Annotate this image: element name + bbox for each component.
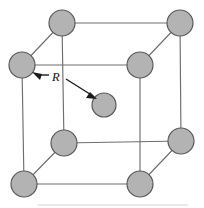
front-layer-atoms [9, 52, 153, 197]
atom-body-center [92, 93, 116, 117]
atom-back-top-left [49, 10, 75, 36]
center-atom-group [92, 93, 116, 117]
atom-front-bottom-right [127, 171, 153, 197]
edge-back-bottom [64, 141, 181, 143]
atom-back-bottom-left [51, 130, 77, 156]
edge-back-left-vertical [62, 23, 64, 143]
radius-arrowhead-start [32, 72, 42, 80]
page-scan-artifact [38, 204, 188, 206]
atom-back-top-right [167, 10, 193, 36]
atom-front-top-right [127, 52, 153, 78]
unit-cell-canvas: R [0, 0, 204, 208]
radius-annotation: R [32, 70, 97, 99]
back-layer-atoms [49, 10, 194, 156]
atom-front-bottom-left [11, 171, 37, 197]
edge-front-left-vertical [22, 65, 24, 184]
scan-edge-artifact [38, 204, 188, 206]
bcc-unit-cell-figure: R [0, 0, 204, 208]
edge-back-right-vertical [180, 23, 181, 141]
atom-front-top-left [9, 52, 35, 78]
radius-arrow-right-segment [66, 79, 93, 96]
radius-label: R [51, 70, 60, 84]
atom-back-bottom-right [168, 128, 194, 154]
